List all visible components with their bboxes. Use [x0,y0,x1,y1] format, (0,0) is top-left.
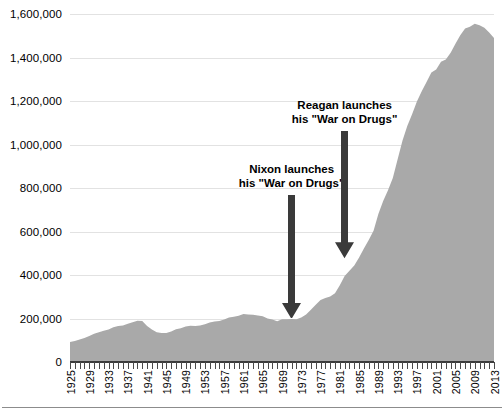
x-axis-tick-label: 1961 [238,370,250,394]
x-axis-tick [287,362,288,369]
annotation-line-1: Reagan launches [215,98,475,112]
x-axis-tick [465,362,466,369]
x-axis-tick [369,362,370,369]
x-axis-tick [147,362,148,369]
x-axis-tick [118,362,119,369]
x-axis-tick [316,362,317,369]
x-axis-tick [292,362,293,369]
x-axis-tick [268,362,269,369]
x-axis-tick [186,362,187,369]
x-axis-tick [321,362,322,369]
x-axis-tick [340,362,341,369]
x-axis-tick-label: 1993 [392,370,404,394]
x-axis-tick [311,362,312,369]
x-axis-tick-label: 1965 [257,370,269,394]
x-axis-tick [104,362,105,369]
x-axis-tick [263,362,264,369]
x-axis-tick [398,362,399,369]
x-axis-tick [210,362,211,369]
x-axis-tick-label: 1997 [411,370,423,394]
x-axis-tick [489,362,490,369]
x-axis-tick [195,362,196,369]
x-axis-tick [470,362,471,369]
x-axis-tick [181,362,182,369]
x-axis-tick-label: 1937 [122,370,134,394]
y-axis-tick-label: 800,000 [20,182,62,194]
x-axis-tick [219,362,220,369]
x-axis-tick [133,362,134,369]
x-axis-tick [70,362,71,369]
chart-container: 1,600,0001,400,0001,200,0001,000,000800,… [0,0,504,420]
x-axis-tick [123,362,124,369]
y-axis-tick-label: 1,200,000 [10,95,62,107]
x-axis-tick [166,362,167,369]
x-axis-tick-label: 1973 [296,370,308,394]
x-axis-tick-label: 1925 [65,370,77,394]
x-axis-tick [407,362,408,369]
x-axis-tick [393,362,394,369]
x-axis-tick [282,362,283,369]
x-axis-tick [272,362,273,369]
x-axis-tick [89,362,90,369]
x-axis-tick-label: 1953 [199,370,211,394]
x-axis-tick [75,362,76,369]
y-axis-tick-label: 1,000,000 [10,139,62,151]
x-axis-tick [378,362,379,369]
y-axis-labels: 1,600,0001,400,0001,200,0001,000,000800,… [0,0,62,420]
x-axis-tick-label: 2013 [489,370,501,394]
x-axis-tick [80,362,81,369]
x-axis-tick [176,362,177,369]
x-axis-tick [349,362,350,369]
x-axis-tick-label: 2001 [431,370,443,394]
y-axis-tick-label: 0 [56,356,63,368]
y-axis-tick-label: 600,000 [20,226,62,238]
x-axis-tick [142,362,143,369]
x-axis-tick [258,362,259,369]
x-axis-tick [364,362,365,369]
x-axis-tick [330,362,331,369]
x-axis-tick [215,362,216,369]
x-axis-tick [480,362,481,369]
x-axis-tick [162,362,163,369]
x-axis-tick-label: 1929 [84,370,96,394]
x-axis-tick [460,362,461,369]
x-axis-tick [190,362,191,369]
x-axis-tick [374,362,375,369]
x-axis-tick [234,362,235,369]
annotation-arrow-nixon [282,195,301,319]
y-axis-tick-label: 1,400,000 [10,52,62,64]
annotation-line-2: his "War on Drugs" [162,176,422,190]
x-axis-tick [417,362,418,369]
x-axis-tick [171,362,172,369]
x-axis-tick [84,362,85,369]
x-axis-tick [494,362,495,369]
annotation-line-1: Nixon launches [162,162,422,176]
x-axis-tick [383,362,384,369]
x-axis-tick [205,362,206,369]
x-axis-tick [422,362,423,369]
x-axis-tick [99,362,100,369]
x-axis-tick [113,362,114,369]
x-axis-tick [451,362,452,369]
x-axis-tick [200,362,201,369]
x-axis-tick [475,362,476,369]
x-axis-tick [446,362,447,369]
x-axis-tick [109,362,110,369]
x-axis-tick [243,362,244,369]
x-axis-tick [427,362,428,369]
x-axis-tick [306,362,307,369]
x-axis-tick [484,362,485,369]
annotation-arrow-reagan [335,131,354,258]
x-axis-tick [137,362,138,369]
x-axis-tick [224,362,225,369]
x-axis-tick-label: 1969 [277,370,289,394]
x-axis-tick [296,362,297,369]
x-axis-tick-label: 2009 [469,370,481,394]
x-axis-tick [157,362,158,369]
x-axis-tick-label: 1933 [103,370,115,394]
x-axis-tick [335,362,336,369]
x-axis-tick [325,362,326,369]
x-axis-tick [455,362,456,369]
x-axis-tick-label: 1977 [315,370,327,394]
x-axis-tick [229,362,230,369]
